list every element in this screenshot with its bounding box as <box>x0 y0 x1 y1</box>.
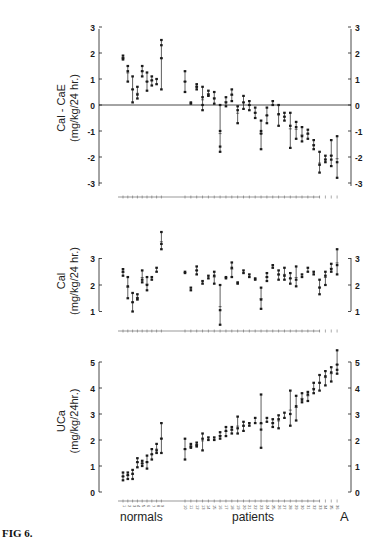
patient-subject <box>266 417 269 423</box>
x-tick-label: 5 <box>141 505 146 508</box>
y-tick-label: 0 <box>90 101 95 111</box>
normal-subject <box>160 39 163 91</box>
patient-subject <box>248 422 251 427</box>
patient-subject <box>330 366 333 383</box>
y-tick-label: 5 <box>355 358 360 368</box>
y-tick-label: -3 <box>355 179 363 189</box>
patient-subject <box>225 276 228 280</box>
normal-subject <box>126 65 129 83</box>
patient-subject <box>336 349 339 375</box>
y-label-line1: UCa <box>55 361 68 481</box>
patient-subject <box>312 271 315 276</box>
normal-subject <box>131 292 134 313</box>
patient-subject <box>260 120 263 151</box>
patient-subject <box>224 96 227 107</box>
normal-subject <box>150 75 153 86</box>
patient-subject <box>318 374 321 392</box>
y-tick-label: 2 <box>90 49 95 59</box>
patient-subject <box>242 269 245 274</box>
y-tick-label: 2 <box>90 281 95 291</box>
patient-subject <box>271 418 274 428</box>
patient-subject <box>301 126 304 143</box>
patient-subject <box>201 86 204 112</box>
normal-subject <box>136 457 139 468</box>
y-tick-label: 2 <box>90 436 95 446</box>
y-axis-label-cal-cae: Cal - CaE (mg/kg/24 hr.) <box>55 48 81 168</box>
patient-subject <box>242 421 245 432</box>
patient-subject <box>190 287 193 292</box>
x-tick-label: 3 <box>132 505 137 508</box>
x-tick-label: 6 <box>146 505 151 508</box>
y-tick-label: -1 <box>87 127 95 137</box>
patient-subject <box>318 279 321 296</box>
normal-subject <box>122 471 125 481</box>
patient-subject <box>289 112 292 149</box>
patient-subject <box>265 107 268 125</box>
patient-subject <box>224 426 227 437</box>
patient-subject <box>213 271 216 285</box>
x-tick-label: 31 <box>306 505 311 510</box>
y-tick-label: -2 <box>355 153 363 163</box>
patient-subject <box>219 104 222 153</box>
patient-subject <box>236 281 239 285</box>
y-label-line2: (mg/kg/24 hr.) <box>68 48 81 168</box>
normal-subject <box>160 422 163 454</box>
patient-subject <box>219 431 222 440</box>
patient-subject <box>301 273 304 278</box>
patient-subject <box>195 442 198 448</box>
patient-subject <box>184 438 187 461</box>
y-tick-label: -1 <box>355 127 363 137</box>
patient-subject <box>219 284 222 326</box>
y-axis-label-cal: Cal (mg/kg/24 hr.) <box>55 221 81 341</box>
patient-subject <box>336 248 339 275</box>
patient-subject <box>277 104 280 127</box>
patient-subject <box>195 83 198 90</box>
y-tick-label: -3 <box>87 179 95 189</box>
x-tick-label: 35 <box>329 505 334 510</box>
patient-subject <box>248 100 251 111</box>
x-tick-label: 1 <box>122 505 127 508</box>
y-label-line2: (mg/kg/24hr.) <box>68 361 81 481</box>
x-tick-label: 7 <box>151 505 156 508</box>
patient-subject <box>190 101 193 104</box>
x-tick-label: 13 <box>201 505 206 510</box>
x-tick-label: 28 <box>288 505 293 510</box>
patient-subject <box>213 436 216 441</box>
normal-subject <box>141 460 144 467</box>
normal-subject <box>131 75 134 103</box>
patient-subject <box>324 370 327 387</box>
patient-subject <box>236 105 239 124</box>
normal-subject <box>155 443 158 454</box>
patient-subject <box>283 267 286 281</box>
patient-subject <box>283 112 286 122</box>
x-tick-label: 26 <box>277 505 282 510</box>
patient-subject <box>277 414 280 429</box>
patient-subject <box>254 277 257 281</box>
patient-subject <box>254 107 257 120</box>
patient-subject <box>324 155 327 164</box>
patient-subject <box>260 393 263 449</box>
patient-subject <box>289 390 292 427</box>
x-tick-label: 30 <box>300 505 305 510</box>
patient-subject <box>230 426 233 435</box>
patient-subject <box>306 129 309 140</box>
y-tick-label: 3 <box>90 410 95 420</box>
y-tick-label: 1 <box>90 75 95 85</box>
y-tick-label: 1 <box>355 75 360 85</box>
y-tick-label: 3 <box>90 23 95 33</box>
x-tick-label: 14 <box>206 505 211 510</box>
y-tick-label: -2 <box>87 153 95 163</box>
patient-subject <box>248 273 251 278</box>
x-tick-label: 32 <box>312 505 317 510</box>
patient-subject <box>265 272 268 282</box>
x-tick-label: 4 <box>136 505 141 508</box>
patient-subject <box>201 432 204 451</box>
y-tick-label: 5 <box>90 358 95 368</box>
y-tick-label: 0 <box>355 101 360 111</box>
x-tick-label: 33 <box>318 505 323 510</box>
x-tick-label: 29 <box>294 505 299 510</box>
patient-subject <box>277 269 280 280</box>
patient-subject <box>195 265 198 275</box>
normal-subject <box>146 276 149 291</box>
patient-subject <box>324 271 327 286</box>
